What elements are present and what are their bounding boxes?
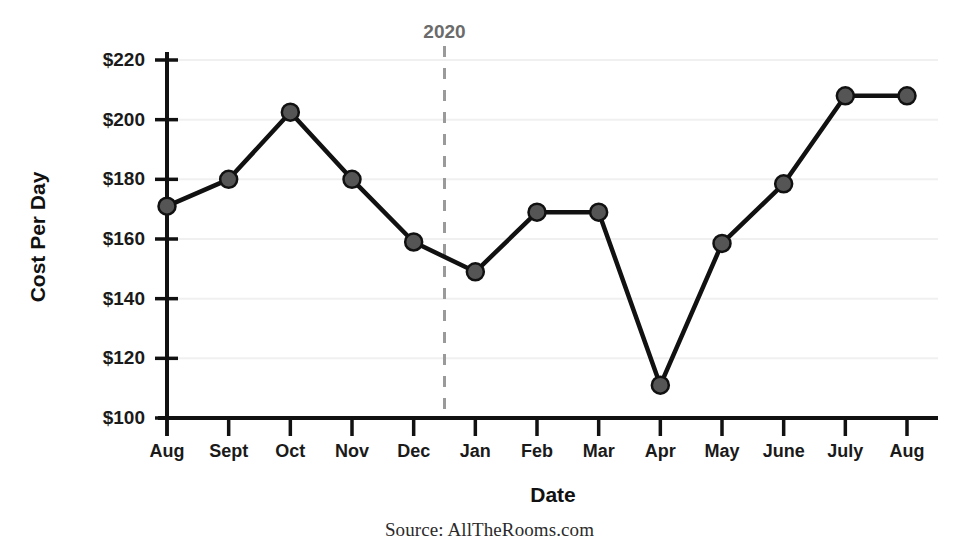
- x-axis-tick-label: Sept: [209, 441, 248, 461]
- data-point-marker: [405, 233, 422, 250]
- y-axis-tick-label: $140: [103, 288, 145, 309]
- y-axis-tick-label: $200: [103, 109, 145, 130]
- y-axis-tick-label: $120: [103, 347, 145, 368]
- x-axis-tick-label: Oct: [275, 441, 305, 461]
- data-point-marker: [775, 175, 792, 192]
- chart-page: $100$120$140$160$180$200$220 AugSeptOctN…: [0, 0, 979, 557]
- x-axis-tick-label: July: [827, 441, 863, 461]
- y-axis-tick-label: $220: [103, 49, 145, 70]
- y-axis-title: Cost Per Day: [26, 171, 49, 302]
- data-point-marker: [652, 377, 669, 394]
- x-axis-tick-labels: AugSeptOctNovDecJanFebMarAprMayJuneJulyA…: [150, 441, 925, 461]
- x-axis-tick-label: Nov: [335, 441, 369, 461]
- data-point-marker: [467, 263, 484, 280]
- x-axis-tick-label: Dec: [397, 441, 430, 461]
- data-point-marker: [344, 171, 361, 188]
- data-point-marker: [159, 198, 176, 215]
- source-note: Source: AllTheRooms.com: [0, 519, 979, 541]
- x-axis-tick-label: May: [704, 441, 739, 461]
- x-axis-tick-label: Mar: [583, 441, 615, 461]
- data-point-marker: [282, 104, 299, 121]
- x-axis-title: Date: [530, 483, 576, 506]
- y-axis-tick-label: $100: [103, 407, 145, 428]
- data-point-marker: [220, 171, 237, 188]
- x-axis-tick-label: Jan: [460, 441, 491, 461]
- y-axis-tick-labels: $100$120$140$160$180$200$220: [103, 49, 145, 428]
- data-point-marker: [714, 235, 731, 252]
- x-axis-tick-label: Feb: [521, 441, 553, 461]
- data-point-marker: [899, 87, 916, 104]
- data-point-marker: [837, 87, 854, 104]
- y-axis-tick-label: $180: [103, 168, 145, 189]
- x-axis-tick-label: June: [763, 441, 805, 461]
- x-axis-tick-label: Aug: [150, 441, 185, 461]
- data-point-marker: [590, 204, 607, 221]
- x-axis-tick-label: Aug: [890, 441, 925, 461]
- x-axis-tick-label: Apr: [645, 441, 676, 461]
- data-point-marker: [529, 204, 546, 221]
- annotation-label-2020: 2020: [423, 21, 465, 42]
- line-chart: $100$120$140$160$180$200$220 AugSeptOctN…: [0, 0, 979, 557]
- y-axis-tick-label: $160: [103, 228, 145, 249]
- data-series-line: [167, 96, 907, 385]
